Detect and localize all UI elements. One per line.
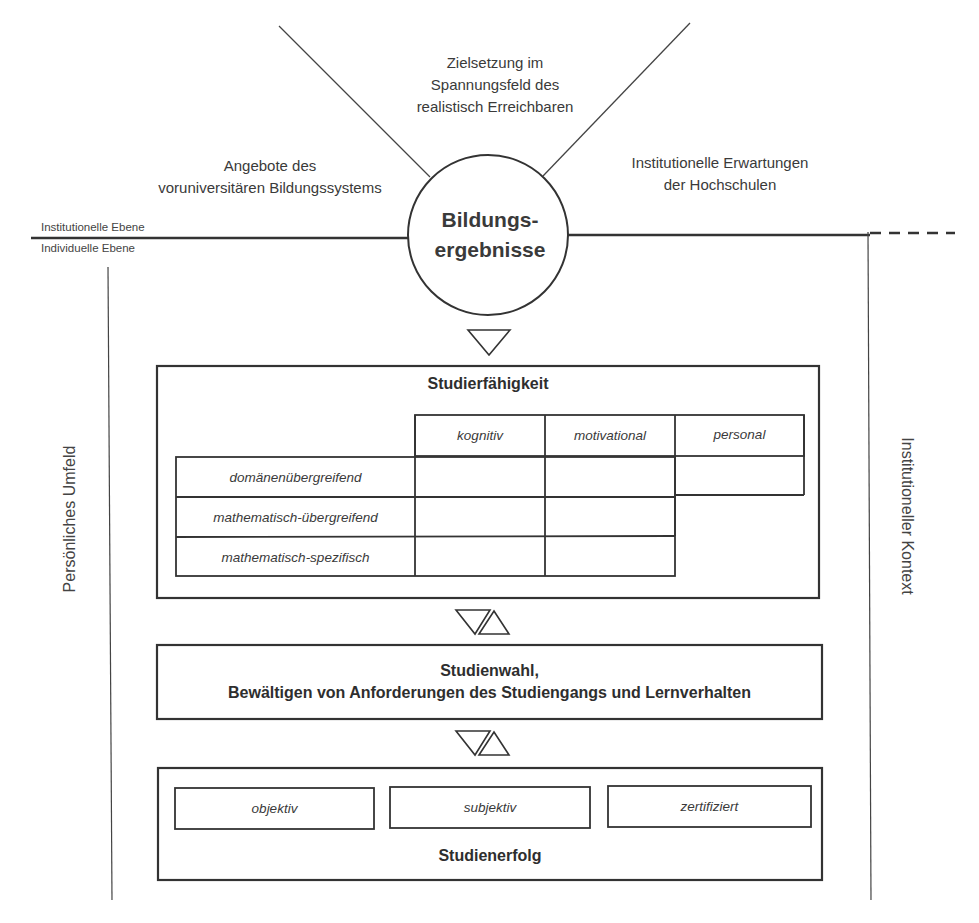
institutioneller-kontext-label: Institutioneller Kontext [898, 431, 916, 601]
column-header-kognitiv: kognitiv [415, 415, 545, 456]
row-header-mathematisch-uebergreifend: mathematisch-übergreifend [176, 497, 415, 537]
left-vertical-line [108, 267, 112, 900]
studienerfolg-title: Studienerfolg [158, 847, 822, 865]
persoenliches-umfeld-label: Persönliches Umfeld [61, 434, 79, 604]
bildungsergebnisse-label: Bildungs- ergebnisse [408, 153, 572, 317]
angebote-label: Angebote des voruniversitären Bildungssy… [130, 155, 410, 199]
row-header-domaenenuebergreifend: domänenübergreifend [176, 457, 415, 497]
right-vertical-line [868, 232, 871, 900]
studienerfolg-objektiv: objektiv [175, 788, 374, 829]
individual-level-label: Individuelle Ebene [41, 242, 135, 254]
erwartungen-label: Institutionelle Erwartungen der Hochschu… [580, 152, 860, 196]
institutional-level-label: Institutionelle Ebene [41, 221, 145, 233]
column-header-motivational: motivational [545, 415, 675, 456]
zielsetzung-label: Zielsetzung im Spannungsfeld des realist… [380, 52, 610, 118]
studienerfolg-zertifiziert: zertifiziert [608, 786, 811, 827]
diagram-lines [0, 0, 979, 923]
studienwahl-text: Studienwahl, Bewältigen von Anforderunge… [157, 645, 822, 719]
arrow-down-icon [468, 330, 510, 355]
column-header-personal: personal [675, 414, 804, 455]
studienerfolg-subjektiv: subjektiv [390, 787, 590, 828]
studierfaehigkeit-title: Studierfähigkeit [157, 375, 819, 393]
row-header-mathematisch-spezifisch: mathematisch-spezifisch [176, 537, 415, 577]
